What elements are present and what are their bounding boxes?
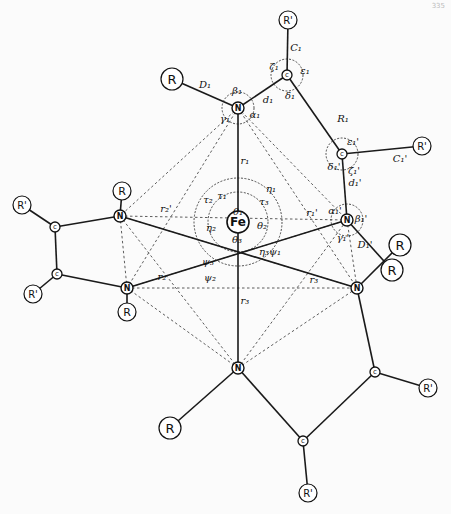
svg-text:γ₁': γ₁' (337, 232, 350, 243)
svg-text:β₁': β₁' (354, 213, 368, 224)
group-r-prime: R' (13, 196, 31, 214)
svg-text:R': R' (303, 488, 313, 499)
svg-text:d₁: d₁ (263, 94, 273, 105)
svg-text:R₁: R₁ (336, 113, 349, 124)
svg-text:c: c (285, 71, 289, 79)
svg-text:C₁': C₁' (393, 153, 407, 164)
svg-text:c: c (55, 270, 59, 278)
svg-text:R: R (165, 421, 174, 436)
svg-text:α₁: α₁ (250, 109, 261, 120)
carbon-atoms: c c c c c c (50, 70, 380, 446)
svg-text:ε₁: ε₁ (300, 65, 309, 76)
svg-text:τ₂: τ₂ (203, 194, 213, 205)
svg-text:N: N (235, 104, 242, 113)
svg-text:c: c (301, 437, 305, 445)
svg-text:θ₂: θ₂ (257, 220, 267, 231)
svg-text:c: c (53, 223, 57, 231)
svg-text:R: R (395, 238, 404, 253)
svg-text:C₁: C₁ (290, 42, 302, 53)
atom-n-top: N (232, 102, 244, 114)
molecule-diagram: Fe N N N N N N c c c c c c R' R' R R R R… (0, 0, 451, 514)
svg-text:D₁': D₁' (357, 239, 373, 250)
svg-text:ψ₃: ψ₃ (202, 256, 214, 267)
group-r: R (118, 303, 136, 321)
svg-text:δ₁': δ₁' (328, 161, 341, 172)
group-r-prime: R' (24, 285, 42, 303)
atom-c-4: c (52, 269, 62, 279)
atom-n-lower-right: N (351, 282, 363, 294)
atom-c-6: c (298, 436, 308, 446)
atom-n-bottom: N (232, 362, 244, 374)
svg-text:γ₁: γ₁ (220, 113, 230, 124)
svg-text:θ₃: θ₃ (232, 234, 242, 245)
svg-text:θ₁: θ₁ (233, 206, 243, 217)
atom-c-2: c (337, 149, 347, 159)
svg-text:R': R' (417, 141, 427, 152)
svg-text:α₁': α₁' (328, 205, 342, 216)
svg-text:R: R (167, 72, 176, 87)
svg-text:R': R' (423, 383, 433, 394)
svg-text:η₁: η₁ (266, 183, 276, 194)
svg-text:η₃: η₃ (259, 246, 269, 257)
group-r: R (159, 417, 181, 439)
atom-c-3: c (50, 222, 60, 232)
group-r: R (113, 182, 131, 200)
svg-text:N: N (344, 216, 351, 225)
svg-text:N: N (235, 364, 242, 373)
substituent-groups: R' R' R R R R R R' R' R' R' R (13, 11, 437, 502)
svg-text:ψ₁: ψ₁ (269, 246, 281, 257)
svg-text:R: R (387, 263, 396, 278)
svg-text:c: c (340, 150, 344, 158)
atom-c-5: c (370, 367, 380, 377)
svg-text:β₁: β₁ (231, 85, 242, 96)
svg-text:d₁': d₁' (348, 177, 361, 188)
svg-text:τ₁: τ₁ (217, 190, 227, 201)
atom-n-lower-left: N (121, 282, 133, 294)
group-r-prime: R' (279, 11, 297, 29)
svg-text:r₃: r₃ (241, 295, 250, 306)
svg-text:N: N (124, 284, 131, 293)
group-r-prime: R' (299, 484, 317, 502)
svg-text:R: R (118, 185, 126, 198)
group-r: R (161, 68, 183, 90)
svg-text:N: N (117, 212, 124, 221)
svg-text:R: R (123, 306, 131, 319)
svg-text:r₂: r₂ (158, 271, 167, 282)
svg-text:ψ₂: ψ₂ (204, 272, 216, 283)
svg-text:r₁: r₁ (241, 155, 250, 166)
svg-text:R': R' (17, 200, 27, 211)
group-r-prime: R' (419, 379, 437, 397)
svg-text:D₁: D₁ (198, 79, 211, 90)
svg-text:r₂': r₂' (160, 203, 172, 214)
svg-text:r₃: r₃ (310, 274, 319, 285)
group-r-prime: R' (413, 137, 431, 155)
svg-text:ε₁': ε₁' (347, 136, 359, 147)
group-r: R (381, 259, 403, 281)
svg-text:δ₁: δ₁ (285, 90, 295, 101)
atom-n-upper-left: N (114, 210, 126, 222)
svg-text:τ₃: τ₃ (259, 196, 269, 207)
svg-text:Fe: Fe (230, 215, 246, 229)
svg-text:ζ₁: ζ₁ (269, 61, 278, 72)
group-r: R (389, 234, 411, 256)
svg-text:c: c (373, 368, 377, 376)
atom-n-upper-right: N (341, 214, 353, 226)
svg-text:R': R' (28, 289, 38, 300)
svg-text:η₂: η₂ (206, 222, 216, 233)
ligand-bonds (22, 20, 428, 493)
svg-text:r₁': r₁' (306, 207, 318, 218)
svg-text:R': R' (283, 15, 293, 26)
atom-c-1: c (282, 70, 292, 80)
svg-text:ζ₁': ζ₁' (348, 165, 360, 176)
svg-text:N: N (354, 284, 361, 293)
